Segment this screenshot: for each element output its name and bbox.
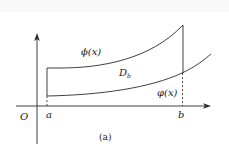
region-diagram: ϕ(x) Db φ(x) O a b (a) <box>0 0 229 158</box>
a-label: a <box>46 109 52 120</box>
figure-caption: (a) <box>99 132 111 142</box>
y-axis <box>34 33 40 144</box>
upper-curve <box>47 25 183 68</box>
lower-curve-label: φ(x) <box>157 87 178 98</box>
upper-curve-label: ϕ(x) <box>81 46 101 57</box>
b-label: b <box>178 109 184 120</box>
origin-label: O <box>20 111 28 122</box>
region-label: Db <box>118 67 131 79</box>
x-axis <box>16 103 211 109</box>
